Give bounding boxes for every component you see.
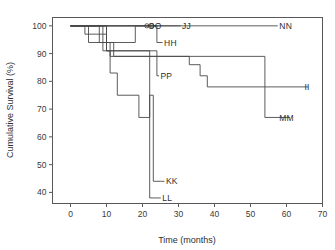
x-tick-label: 0 <box>68 209 73 219</box>
survival-curves <box>71 26 309 198</box>
curve-label-jj: JJ <box>182 21 191 31</box>
x-axis-title: Time (months) <box>158 235 216 245</box>
survival-curve-mm <box>71 26 291 118</box>
x-axis-ticks: 010203040506070 <box>68 204 327 219</box>
plot-border <box>53 18 323 204</box>
x-tick-label: 20 <box>138 209 148 219</box>
y-axis-ticks: 405060708090100 <box>32 21 52 198</box>
curve-label-hh: HH <box>164 38 177 48</box>
survival-curve-kk <box>71 26 161 181</box>
x-tick-label: 30 <box>174 209 184 219</box>
y-axis-title: Cumulative Survival (%) <box>5 62 15 158</box>
x-tick-label: 50 <box>246 209 256 219</box>
y-tick-label: 40 <box>37 187 47 197</box>
curve-label-nn: NN <box>279 21 292 31</box>
curve-label-mm: MM <box>279 113 294 123</box>
chart-page: 405060708090100 010203040506070 NNJJOOHH… <box>0 0 335 250</box>
y-tick-label: 60 <box>37 132 47 142</box>
curve-label-ll: LL <box>162 193 172 203</box>
curve-label-oo: OO <box>148 21 162 31</box>
plot-frame <box>53 18 323 204</box>
survival-chart: 405060708090100 010203040506070 NNJJOOHH… <box>0 0 335 250</box>
x-tick-label: 70 <box>318 209 328 219</box>
survival-curve-hh <box>71 26 157 43</box>
y-tick-label: 100 <box>32 21 46 31</box>
curve-labels: NNJJOOHHPPIIMMKKLL <box>148 21 310 203</box>
curve-label-ii: II <box>305 82 310 92</box>
y-tick-label: 90 <box>37 49 47 59</box>
x-tick-label: 60 <box>282 209 292 219</box>
y-tick-label: 80 <box>37 76 47 86</box>
x-tick-label: 10 <box>102 209 112 219</box>
curve-label-kk: KK <box>166 176 178 186</box>
curve-label-pp: PP <box>161 71 173 81</box>
y-tick-label: 50 <box>37 160 47 170</box>
y-tick-label: 70 <box>37 104 47 114</box>
x-tick-label: 40 <box>210 209 220 219</box>
